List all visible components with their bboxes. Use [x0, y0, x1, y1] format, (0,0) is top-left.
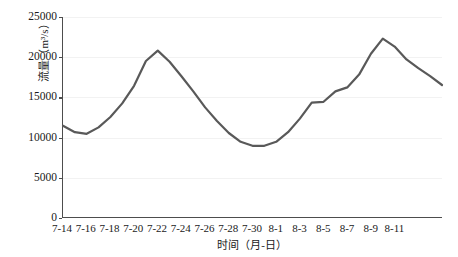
x-tick-label: 8-5: [316, 222, 331, 235]
x-tick-label: 8-1: [268, 222, 283, 235]
y-tick-mark: [59, 138, 63, 139]
y-tick-mark: [59, 17, 63, 18]
y-tick-label: 5000: [34, 172, 57, 184]
x-axis-tick-labels: 7-147-167-187-207-227-247-267-287-308-18…: [62, 222, 442, 238]
x-tick-label: 7-16: [76, 222, 96, 235]
y-tick-mark: [59, 178, 63, 179]
x-tick-label: 8-11: [385, 222, 405, 235]
x-tick-label: 7-20: [123, 222, 143, 235]
x-tick-label: 8-9: [363, 222, 378, 235]
y-axis-title: 流量（m³/s）: [38, 0, 50, 110]
chart-figure: 0500010000150002000025000 流量（m³/s） 7-147…: [0, 0, 458, 257]
x-tick-label: 7-24: [171, 222, 191, 235]
x-tick-label: 8-7: [340, 222, 355, 235]
y-tick-label: 10000: [28, 132, 57, 144]
x-tick-label: 7-18: [99, 222, 119, 235]
x-axis-title: 时间（月-日）: [62, 239, 442, 252]
x-tick-label: 7-22: [147, 222, 167, 235]
x-tick-label: 7-30: [242, 222, 262, 235]
x-tick-label: 7-26: [194, 222, 214, 235]
x-tick-label: 8-3: [292, 222, 307, 235]
x-tick-label: 7-28: [218, 222, 238, 235]
plot-area: [62, 17, 442, 218]
y-tick-mark: [59, 218, 63, 219]
flow-line-series: [63, 17, 442, 217]
y-tick-mark: [59, 57, 63, 58]
x-tick-label: 7-14: [52, 222, 72, 235]
y-tick-mark: [59, 97, 63, 98]
